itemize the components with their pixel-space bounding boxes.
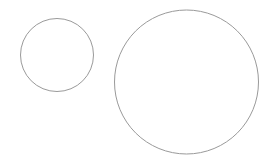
large-circle [115,10,259,154]
small-circle [21,19,94,92]
diagram-canvas [0,0,274,164]
